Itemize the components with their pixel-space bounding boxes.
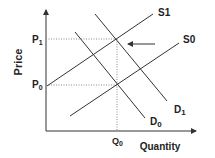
supply-curve-s0 [70,43,179,116]
supply-demand-diagram: Price Quantity P1 P0 Q0 S1 S0 D1 D0 [0,0,215,158]
p0-label: P0 [32,79,43,91]
x-axis-label: Quantity [140,141,181,152]
d0-label: D0 [150,116,162,129]
s0-label: S0 [183,34,196,45]
y-axis-label: Price [12,49,24,76]
p1-label: P1 [32,34,43,46]
d1-label: D1 [174,104,186,117]
demand-curve-d1 [95,14,167,101]
q0-label: Q0 [112,136,123,147]
s1-label: S1 [158,7,171,18]
supply-curve-s1 [47,14,153,86]
